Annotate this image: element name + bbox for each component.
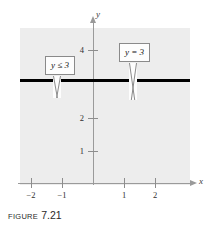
callout-equation-tail xyxy=(129,63,137,100)
y-ticklabel-4: 4 xyxy=(70,46,84,55)
y-tick-4 xyxy=(88,50,98,51)
figure-caption-word: FIGURE xyxy=(8,212,38,221)
y-axis xyxy=(93,22,94,185)
y-axis-label: y xyxy=(96,10,100,19)
line-y-equals-3 xyxy=(20,79,190,82)
y-ticklabel-1: 1 xyxy=(70,147,84,156)
x-tick-1 xyxy=(124,178,125,188)
figure-container: y x 4 2 1 −2 −1 1 2 y ≤ 3 y = 3 FIGURE7.… xyxy=(0,0,211,225)
y-tick-2 xyxy=(88,118,98,119)
callout-inequality-tail xyxy=(53,76,61,98)
y-tick-1 xyxy=(88,151,98,152)
callout-inequality-label: y ≤ 3 xyxy=(45,56,75,75)
y-ticklabel-2: 2 xyxy=(70,114,84,123)
plot-area xyxy=(20,28,190,185)
x-axis xyxy=(18,183,190,184)
figure-caption-number: 7.21 xyxy=(41,209,61,221)
callout-equation-label: y = 3 xyxy=(119,43,150,62)
x-ticklabel-minus1: −1 xyxy=(53,191,71,200)
figure-caption: FIGURE7.21 xyxy=(8,206,62,222)
x-ticklabel-minus2: −2 xyxy=(22,191,40,200)
callout-equation: y = 3 xyxy=(119,43,150,62)
callout-inequality: y ≤ 3 xyxy=(45,56,75,75)
x-tick-2 xyxy=(155,178,156,188)
x-ticklabel-2: 2 xyxy=(146,191,164,200)
x-axis-label: x xyxy=(199,177,203,186)
x-ticklabel-1: 1 xyxy=(115,191,133,200)
x-tick-minus1 xyxy=(62,178,63,188)
x-axis-arrow-icon xyxy=(190,180,197,186)
x-tick-minus2 xyxy=(31,178,32,188)
